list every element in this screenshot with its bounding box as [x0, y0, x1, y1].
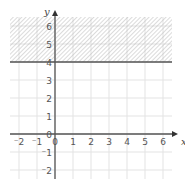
y-tick-label: ⁻1 — [42, 148, 52, 158]
x-tick-label: 0 — [52, 137, 58, 147]
y-tick-label: 5 — [46, 40, 52, 50]
x-tick-label: 3 — [106, 137, 112, 147]
y-tick-label: 4 — [46, 58, 52, 68]
origin-label: 0 — [46, 130, 52, 140]
x-tick-label: 2 — [88, 137, 94, 147]
shaded-region — [10, 17, 172, 62]
x-tick-label: 6 — [160, 137, 166, 147]
inequality-graph: ⁻2⁻10123456⁻2⁻11234560 x y — [0, 0, 185, 187]
x-tick-label: 5 — [142, 137, 148, 147]
x-axis-label: x — [181, 136, 185, 147]
y-tick-label: ⁻2 — [42, 166, 52, 176]
y-axis-arrow-icon — [52, 10, 58, 16]
x-tick-label: ⁻2 — [14, 137, 24, 147]
y-tick-label: 3 — [46, 76, 52, 86]
y-tick-label: 2 — [46, 94, 52, 104]
y-tick-label: 6 — [46, 22, 52, 32]
x-tick-label: ⁻1 — [32, 137, 42, 147]
y-tick-label: 1 — [46, 112, 52, 122]
x-tick-label: 4 — [124, 137, 130, 147]
y-axis-label: y — [43, 6, 50, 17]
x-tick-label: 1 — [70, 137, 76, 147]
x-axis-arrow-icon — [172, 131, 178, 137]
